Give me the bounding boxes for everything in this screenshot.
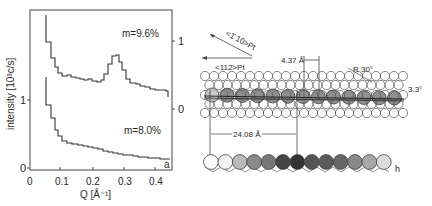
right-tick-1: 1 [178, 35, 184, 47]
y-axis-label: intensity [10³c/s] [5, 58, 16, 130]
dir-110-label: <1̄ 10>Pt [224, 29, 258, 53]
structure-diagram: <1̄ 10>Pt <112̄>Pt 4.37 Å R 30° 3.3° 24.… [200, 29, 422, 174]
side-view-row [204, 155, 392, 172]
left-tick-0: 0 [20, 162, 26, 174]
angle-label: 3.3° [408, 85, 422, 94]
dir-112-label: <112̄>Pt [215, 63, 245, 72]
right-tick-0: 0 [178, 103, 184, 115]
panel-label-a: a [164, 159, 170, 170]
left-tick-1: 1 [20, 94, 26, 106]
x-tick-0.2: 0.2 [86, 176, 100, 187]
spacing-large-label: 24.08 Å [233, 130, 261, 139]
figure: 0 1 1 0 0 0.1 0.2 0.3 0.4 Q [Å⁻¹] intens… [0, 0, 432, 206]
x-tick-0: 0 [27, 176, 33, 187]
curve-label-m-8-0: m=8.0% [124, 125, 161, 136]
x-axis-label: Q [Å⁻¹] [80, 188, 111, 200]
panel-label-h: h [395, 164, 400, 174]
curve-label-m-9-6: m=9.6% [122, 28, 159, 39]
x-tick-0.3: 0.3 [118, 176, 132, 187]
x-tick-0.1: 0.1 [55, 176, 69, 187]
intensity-plot: 0 1 1 0 0 0.1 0.2 0.3 0.4 Q [Å⁻¹] intens… [5, 10, 184, 200]
spacing-small-label: 4.37 Å [281, 56, 305, 65]
x-tick-0.4: 0.4 [149, 176, 163, 187]
